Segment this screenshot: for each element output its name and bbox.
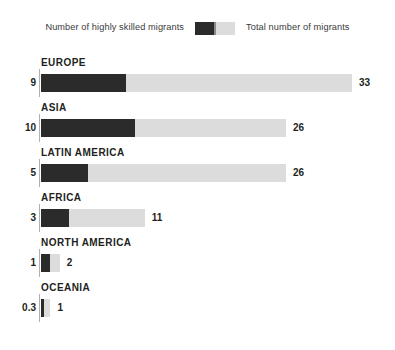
bar-row: 0.31 — [0, 297, 395, 319]
legend-label-total: Total number of migrants — [246, 23, 350, 32]
bar-segment-skilled — [41, 254, 50, 272]
skilled-value-label: 9 — [30, 74, 36, 92]
bar-segment-total — [69, 209, 144, 227]
axis-tick — [39, 114, 40, 142]
bar-group: EUROPE933 — [0, 58, 395, 102]
stacked-bar — [41, 209, 145, 227]
stacked-bar — [41, 299, 50, 317]
bar-segment-total — [44, 299, 50, 317]
bar-segment-total — [50, 254, 59, 272]
total-value-label: 26 — [293, 119, 304, 137]
stacked-bar — [41, 164, 286, 182]
bar-row: 933 — [0, 72, 395, 94]
skilled-value-label: 10 — [25, 119, 36, 137]
bar-group: NORTH AMERICA12 — [0, 238, 395, 282]
bar-row: 311 — [0, 207, 395, 229]
bar-group: OCEANIA0.31 — [0, 283, 395, 327]
total-value-label: 26 — [293, 164, 304, 182]
region-label: ASIA — [41, 103, 67, 113]
axis-tick — [39, 69, 40, 97]
bar-group: AFRICA311 — [0, 193, 395, 237]
chart-legend: Number of highly skilled migrants Total … — [0, 18, 395, 38]
legend-label-skilled: Number of highly skilled migrants — [45, 23, 184, 32]
bar-segment-skilled — [41, 74, 126, 92]
axis-tick — [39, 294, 40, 322]
axis-tick — [39, 249, 40, 277]
region-label: OCEANIA — [41, 283, 90, 293]
legend-swatch — [195, 22, 235, 35]
bar-segment-skilled — [41, 119, 135, 137]
stacked-bar — [41, 254, 60, 272]
bar-group: ASIA1026 — [0, 103, 395, 147]
region-label: EUROPE — [41, 58, 86, 68]
total-value-label: 1 — [57, 299, 63, 317]
legend-swatch-skilled — [195, 22, 214, 35]
bar-row: 12 — [0, 252, 395, 274]
region-label: AFRICA — [41, 193, 81, 203]
axis-tick — [39, 204, 40, 232]
bar-segment-total — [126, 74, 352, 92]
total-value-label: 2 — [67, 254, 73, 272]
region-label: LATIN AMERICA — [41, 148, 125, 158]
bar-row: 526 — [0, 162, 395, 184]
stacked-bar — [41, 119, 286, 137]
bar-row: 1026 — [0, 117, 395, 139]
stacked-bar — [41, 74, 352, 92]
bar-segment-total — [135, 119, 286, 137]
skilled-value-label: 0.3 — [22, 299, 36, 317]
total-value-label: 33 — [359, 74, 370, 92]
total-value-label: 11 — [152, 209, 163, 227]
bar-segment-skilled — [41, 209, 69, 227]
skilled-value-label: 3 — [30, 209, 36, 227]
axis-tick — [39, 159, 40, 187]
skilled-value-label: 5 — [30, 164, 36, 182]
bar-segment-skilled — [41, 164, 88, 182]
region-label: NORTH AMERICA — [41, 238, 131, 248]
bar-group: LATIN AMERICA526 — [0, 148, 395, 192]
bar-chart-plot: EUROPE933ASIA1026LATIN AMERICA526AFRICA3… — [0, 58, 395, 348]
bar-segment-total — [88, 164, 286, 182]
legend-swatch-total — [216, 22, 235, 35]
skilled-value-label: 1 — [30, 254, 36, 272]
